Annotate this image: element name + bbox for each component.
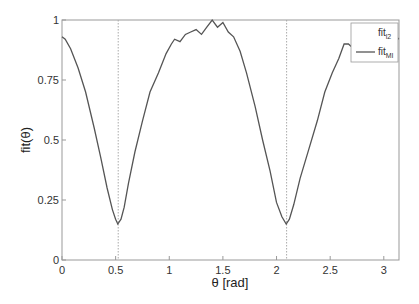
svg-text:0.25: 0.25 xyxy=(38,194,59,206)
plot-area xyxy=(62,20,399,260)
svg-text:1: 1 xyxy=(53,14,59,26)
legend: fitl2 fitMI xyxy=(351,23,398,62)
svg-text:1: 1 xyxy=(166,264,172,276)
svg-text:0: 0 xyxy=(59,264,65,276)
svg-text:0.5: 0.5 xyxy=(108,264,123,276)
svg-text:2.5: 2.5 xyxy=(323,264,338,276)
svg-text:2: 2 xyxy=(273,264,279,276)
line-chart: 00.250.50.751 00.511.522.53 θ [rad] fit(… xyxy=(0,0,419,304)
svg-text:0.75: 0.75 xyxy=(38,74,59,86)
x-axis-label: θ [rad] xyxy=(212,275,249,290)
svg-text:0.5: 0.5 xyxy=(44,134,59,146)
y-axis-label: fit(θ) xyxy=(18,127,33,153)
svg-text:3: 3 xyxy=(381,264,387,276)
